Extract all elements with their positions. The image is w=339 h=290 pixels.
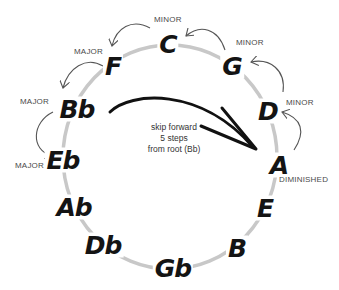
note-bb: Bb <box>58 97 97 122</box>
note-d: D <box>256 99 280 124</box>
quality-label-d: MINOR <box>286 99 314 107</box>
note-a: A <box>268 153 290 178</box>
skip-annotation-line3: from root (Bb) <box>129 144 219 155</box>
quality-label-f: MAJOR <box>74 48 103 56</box>
note-ab: Ab <box>54 195 93 220</box>
note-c: C <box>157 32 178 57</box>
skip-annotation: skip forward 5 steps from root (Bb) <box>129 122 219 155</box>
quality-label-eb: MAJOR <box>15 162 44 170</box>
note-eb: Eb <box>45 148 82 173</box>
note-gb: Gb <box>153 256 193 281</box>
skip-annotation-line2: 5 steps <box>129 133 219 144</box>
quality-label-g: MINOR <box>236 39 264 47</box>
note-e: E <box>255 196 275 221</box>
quality-label-a: DIMINISHED <box>279 176 328 184</box>
quality-label-c: MINOR <box>154 16 182 24</box>
quality-label-bb: MAJOR <box>20 98 49 106</box>
arrow-a-to-d <box>282 112 301 150</box>
skip-annotation-line1: skip forward <box>129 122 219 133</box>
note-g: G <box>220 54 244 79</box>
arrow-c-to-f <box>112 24 150 46</box>
circle-of-fifths-diagram: C G D A E B Gb Db Ab Eb Bb F MINOR MINOR… <box>0 0 339 290</box>
note-b: B <box>226 236 248 261</box>
note-db: Db <box>83 233 124 258</box>
note-f: F <box>103 54 123 79</box>
